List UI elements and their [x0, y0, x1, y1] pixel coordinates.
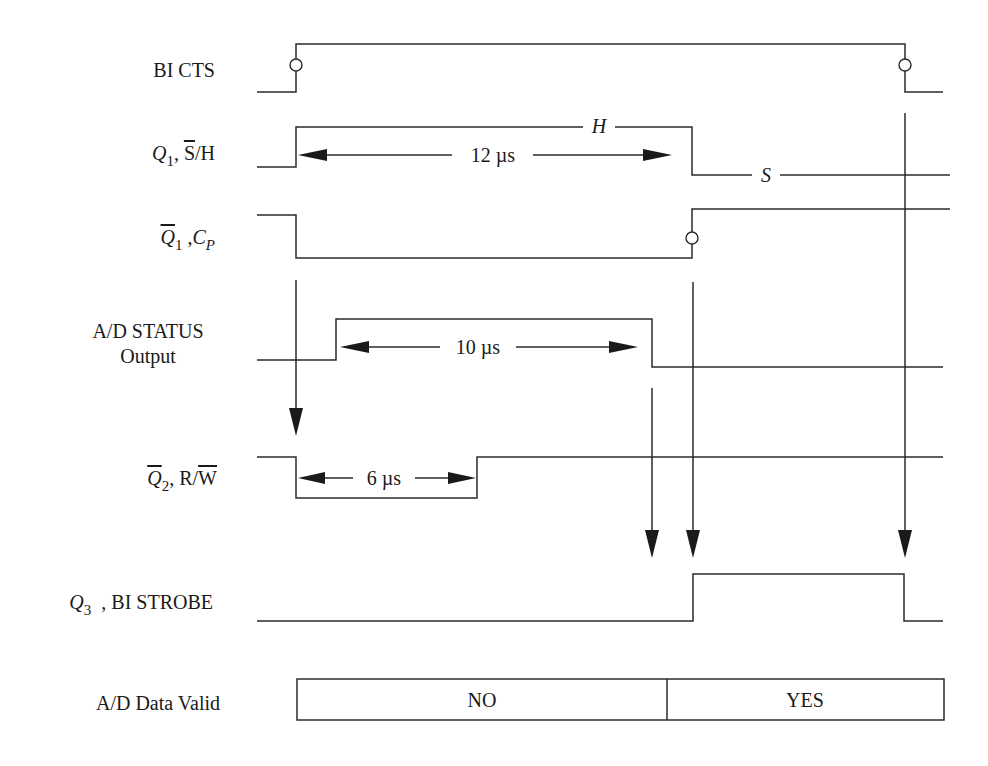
- duration-label-6us: 6 µs: [334, 466, 434, 490]
- timing-diagram: BI CTS Q1, S/H Q1 ,CP A/D STATUS Output …: [0, 0, 988, 766]
- data-valid-state-yes: YES: [755, 688, 855, 712]
- waveform-bi-cts: [257, 44, 943, 92]
- arrow-left-icon: [340, 341, 369, 353]
- signal-label-q1-sh: Q1, S/H: [152, 141, 215, 165]
- signal-label-q2-bar-rw: Q2, R/W: [147, 466, 217, 490]
- duration-label-10us: 10 µs: [428, 335, 528, 359]
- label-rest: /H: [195, 142, 215, 164]
- arrow-down-icon: [645, 530, 659, 558]
- label-overline-text: W: [198, 467, 217, 489]
- label-symbol: Q: [147, 467, 161, 489]
- signal-label-data-valid: A/D Data Valid: [96, 691, 220, 715]
- arrow-left-icon: [298, 472, 325, 484]
- signal-label-q3-bi-strobe: Q3 , BI STROBE: [69, 590, 213, 614]
- label-symbol: Q: [161, 226, 175, 248]
- label-text: BI CTS: [153, 59, 215, 81]
- waveform-layer: [0, 0, 988, 766]
- arrow-right-icon: [643, 149, 672, 161]
- label-subscript-2: P: [206, 237, 215, 253]
- signal-label-ad-status: A/D STATUS: [58, 319, 238, 343]
- signal-label-ad-status-output: Output: [58, 344, 238, 368]
- arrow-down-icon: [686, 530, 700, 558]
- arrow-right-icon: [448, 472, 476, 484]
- label-separator: ,: [182, 226, 192, 248]
- label-subscript: 3: [84, 602, 92, 618]
- label-subscript: 2: [162, 478, 170, 494]
- label-separator: ,: [174, 142, 184, 164]
- label-subscript: 1: [166, 153, 174, 169]
- arrow-down-icon: [289, 408, 303, 436]
- arrow-down-icon: [898, 530, 912, 558]
- label-separator: , R/: [169, 467, 198, 489]
- arrow-left-icon: [298, 149, 327, 161]
- label-overline-text: S: [184, 142, 195, 164]
- level-label-high: H: [549, 114, 649, 138]
- data-valid-state-no: NO: [432, 688, 532, 712]
- edge-bubble-icon: [290, 59, 302, 71]
- signal-label-q1-bar-cp: Q1 ,CP: [161, 225, 215, 249]
- label-symbol: Q: [69, 591, 83, 613]
- signal-label-bi-cts: BI CTS: [153, 58, 215, 82]
- label-rest: , BI STROBE: [91, 591, 213, 613]
- duration-label-12us: 12 µs: [443, 143, 543, 167]
- label-symbol: Q: [152, 142, 166, 164]
- edge-bubble-icon: [899, 59, 911, 71]
- waveform-q1-bar: [257, 209, 950, 258]
- label-symbol-2: C: [192, 226, 205, 248]
- waveform-q3: [257, 574, 943, 621]
- edge-bubble-icon: [686, 232, 698, 244]
- level-label-low: S: [716, 163, 816, 187]
- label-subscript: 1: [175, 237, 183, 253]
- arrow-right-icon: [609, 341, 638, 353]
